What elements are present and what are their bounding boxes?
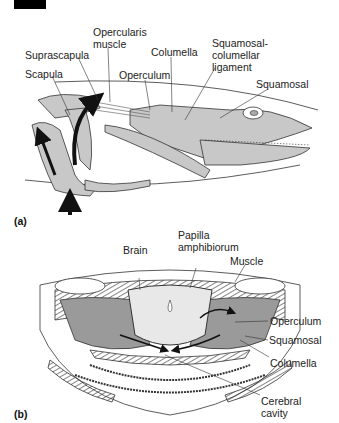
label-muscle: Muscle [230, 255, 263, 267]
label-squamosal-b: Squamosal [269, 334, 322, 346]
label-operculum: Operculum [119, 69, 170, 81]
panel-label-b: (b) [14, 408, 27, 420]
label-operculum-b: Operculum [270, 315, 321, 327]
label-columella: Columella [151, 46, 198, 58]
label-squamosal: Squamosal [256, 78, 309, 90]
label-brain: Brain [123, 244, 148, 256]
label-suprascapula: Suprascapula [25, 49, 89, 61]
label-squamosal-columellar-ligament: Squamosal- columellar ligament [212, 37, 268, 73]
label-cerebral-cavity: Cerebral cavity [261, 395, 301, 419]
panel-label-a: (a) [14, 215, 27, 227]
label-opercularis-muscle: Opercularis muscle [93, 26, 147, 50]
label-columella-b: Columella [270, 357, 317, 369]
panel-b-drawing [40, 265, 300, 415]
panel-a-drawing [25, 48, 318, 215]
label-scapula: Scapula [25, 68, 63, 80]
label-papilla-amphibiorum: Papilla amphibiorum [178, 229, 239, 253]
